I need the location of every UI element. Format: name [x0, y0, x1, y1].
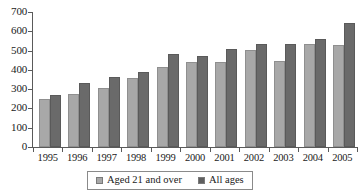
legend-swatch-icon-aged-21-and-over: [96, 177, 103, 184]
x-axis-tick-label: 2003: [268, 152, 298, 164]
x-axis-tick-label: 2000: [180, 152, 210, 164]
legend-item-aged-21-and-over: Aged 21 and over: [96, 174, 182, 186]
y-axis-tick-label: 700: [1, 6, 27, 17]
bar: [98, 88, 109, 147]
x-axis-tick-label: 1996: [62, 152, 92, 164]
bar-group: [39, 12, 61, 147]
legend-label-aged-21-and-over: Aged 21 and over: [107, 174, 182, 186]
bar-group: [215, 12, 237, 147]
bar-group: [304, 12, 326, 147]
bar: [39, 99, 50, 147]
legend-swatch-icon-all-ages: [198, 177, 205, 184]
x-axis-tick-mark: [357, 148, 358, 152]
bar: [127, 78, 138, 147]
x-axis-tick-label: 1995: [33, 152, 63, 164]
x-axis-tick-label: 2004: [298, 152, 328, 164]
bar: [50, 95, 61, 147]
y-axis-tick-label: 100: [1, 122, 27, 133]
bar: [109, 77, 120, 147]
bar: [304, 44, 315, 147]
bar: [315, 39, 326, 147]
bar: [226, 49, 237, 147]
x-axis-tick-label: 1998: [121, 152, 151, 164]
bar: [168, 54, 179, 147]
bar: [274, 61, 285, 147]
bar: [157, 67, 168, 147]
bar-group: [274, 12, 296, 147]
legend-label-all-ages: All ages: [209, 174, 244, 186]
bar: [285, 44, 296, 147]
x-axis-line: [32, 147, 358, 148]
bar-group: [157, 12, 179, 147]
bar-group: [68, 12, 90, 147]
bar: [245, 50, 256, 147]
bar-group: [245, 12, 267, 147]
legend-item-all-ages: All ages: [198, 174, 244, 186]
plot-area: [33, 12, 357, 147]
y-axis-tick-label: 400: [1, 64, 27, 75]
y-axis-labels: 7006005004003002001000: [0, 0, 27, 160]
chart-legend: Aged 21 and over All ages: [87, 171, 253, 190]
bar-group: [333, 12, 355, 147]
y-axis-tick-label: 200: [1, 102, 27, 113]
bar: [215, 62, 226, 147]
y-axis-tick-label: 300: [1, 83, 27, 94]
x-axis-tick-label: 2005: [327, 152, 357, 164]
bar: [256, 44, 267, 147]
bar-group: [98, 12, 120, 147]
y-axis-tick-label: 500: [1, 45, 27, 56]
bar: [68, 94, 79, 147]
y-axis-tick-label: 0: [1, 141, 27, 152]
bar-group: [186, 12, 208, 147]
bar-group: [127, 12, 149, 147]
x-axis-tick-label: 1997: [92, 152, 122, 164]
bar: [138, 72, 149, 147]
y-axis-tick-label: 600: [1, 25, 27, 36]
x-axis-tick-label: 2002: [239, 152, 269, 164]
x-axis-tick-label: 1999: [151, 152, 181, 164]
bar: [186, 62, 197, 147]
x-axis-tick-label: 2001: [209, 152, 239, 164]
bar: [333, 45, 344, 147]
bar: [79, 83, 90, 147]
bar-chart: 7006005004003002001000 19951996199719981…: [0, 0, 362, 195]
bar: [197, 56, 208, 147]
bar: [344, 23, 355, 147]
